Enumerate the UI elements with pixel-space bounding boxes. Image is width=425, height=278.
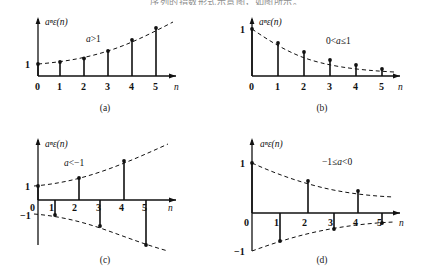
x-tick-0: 0: [249, 81, 254, 92]
caption-c: (c): [85, 255, 125, 265]
sample-point-n1: [53, 213, 57, 217]
x-tick-1: 1: [49, 202, 54, 213]
x-axis-label: n: [168, 203, 173, 213]
x-tick-4: 4: [353, 81, 358, 92]
sample-point-n5: [144, 243, 148, 247]
condition-suffix: <−1: [69, 158, 85, 168]
x-tick-2: 2: [72, 202, 77, 213]
sample-point-n1: [58, 60, 62, 64]
x-axis-arrow: [169, 74, 176, 79]
sample-point-n0: [36, 62, 40, 66]
sample-point-n2: [82, 57, 86, 61]
sample-point-n3: [328, 58, 332, 62]
condition-label: 0<a≤1: [326, 36, 351, 46]
x-tick-2: 2: [81, 81, 86, 92]
condition-label: −1≤a<0: [322, 157, 352, 167]
panel-d: aⁿε(n) −1≤a<0 1 −1 0 1 2 3 4 5 n: [222, 133, 422, 253]
x-tick-0: 0: [35, 81, 40, 92]
x-axis-arrow: [169, 198, 176, 203]
sample-point-n1: [276, 41, 280, 45]
sample-point-n3: [106, 49, 110, 53]
caption-d: (d): [302, 255, 342, 265]
x-tick-2: 2: [302, 217, 307, 228]
x-tick-5: 5: [379, 81, 384, 92]
y-tick-1: 1: [240, 158, 245, 169]
sample-point-n5: [380, 67, 384, 71]
y-tick-1: 1: [25, 181, 30, 192]
y-axis-arrow: [36, 138, 41, 145]
y-tick-1: 1: [240, 24, 245, 35]
y-tick-1: 1: [25, 59, 30, 70]
condition-suffix: >1: [91, 34, 101, 44]
panel-a: aⁿε(n) a>1 1 0 1 2 3 4 5 n: [8, 12, 208, 112]
sample-point-n4: [122, 159, 126, 163]
x-tick-5: 5: [142, 202, 147, 213]
sample-point-n4: [130, 38, 134, 42]
y-axis-label: aⁿε(n): [259, 17, 282, 28]
x-tick-4: 4: [353, 217, 358, 228]
figure-container: 序列的指数形式示意图，如图所示。 aⁿε(n): [0, 0, 425, 278]
panel-a-plot: aⁿε(n) a>1 1 0 1 2 3 4 5 n: [8, 12, 208, 112]
x-tick-4: 4: [129, 81, 134, 92]
x-tick-1: 1: [57, 81, 62, 92]
y-tick-minus1: −1: [234, 246, 245, 257]
sample-point-n1: [278, 239, 282, 243]
x-tick-2: 2: [301, 81, 306, 92]
sample-point-n2: [302, 50, 306, 54]
y-axis-label: aⁿε(n): [45, 139, 68, 150]
condition-prefix: −1≤: [322, 157, 337, 167]
envelope-curve-lower: [34, 214, 168, 251]
condition-label: a>1: [86, 34, 101, 44]
condition-suffix: ≤1: [341, 36, 351, 46]
envelope-curve-upper: [34, 144, 168, 186]
condition-suffix: <0: [342, 157, 352, 167]
panel-c: aⁿε(n) a<−1 1 −1 0 1 2 3 4 5 n: [8, 133, 208, 253]
x-axis-arrow: [393, 74, 400, 79]
envelope-curve: [38, 22, 173, 64]
x-tick-4: 4: [119, 202, 124, 213]
condition-label: a<−1: [64, 158, 84, 168]
x-tick-3: 3: [328, 217, 333, 228]
x-tick-5: 5: [377, 217, 382, 228]
sample-point-n2: [77, 176, 81, 180]
top-cropped-caption: 序列的指数形式示意图，如图所示。: [150, 0, 425, 5]
x-tick-3: 3: [105, 81, 110, 92]
panel-b-plot: aⁿε(n) 0<a≤1 1 0 1 2 3 4 5 n: [222, 12, 422, 112]
panel-b: aⁿε(n) 0<a≤1 1 0 1 2 3 4 5 n: [222, 12, 422, 112]
sample-point-n2: [306, 179, 310, 183]
x-axis-label: n: [399, 218, 404, 228]
caption-a: (a): [85, 103, 125, 113]
sample-point-n4: [356, 189, 360, 193]
y-axis-label: aⁿε(n): [260, 139, 283, 150]
envelope-curve: [252, 29, 394, 72]
x-tick-0: 0: [244, 217, 249, 228]
sample-point-n5: [154, 26, 158, 30]
envelope-curve-upper: [252, 163, 394, 197]
y-axis-arrow: [36, 17, 41, 24]
x-axis-arrow: [393, 211, 400, 216]
panel-c-plot: aⁿε(n) a<−1 1 −1 0 1 2 3 4 5 n: [8, 133, 208, 253]
x-tick-1: 1: [274, 217, 279, 228]
panel-d-plot: aⁿε(n) −1≤a<0 1 −1 0 1 2 3 4 5 n: [222, 133, 422, 253]
x-tick-1: 1: [275, 81, 280, 92]
x-tick-5: 5: [153, 81, 158, 92]
caption-b: (b): [302, 103, 342, 113]
sample-point-n3: [98, 224, 102, 228]
sample-point-n4: [354, 63, 358, 67]
x-tick-0: 0: [30, 202, 35, 213]
y-axis-arrow: [250, 138, 255, 145]
condition-prefix: 0<: [326, 36, 336, 46]
y-axis-label: aⁿε(n): [45, 17, 68, 28]
sample-point-n0: [250, 27, 254, 31]
x-axis-label: n: [398, 82, 403, 92]
x-tick-3: 3: [96, 202, 101, 213]
sample-point-n0: [250, 161, 254, 165]
x-tick-3: 3: [327, 81, 332, 92]
x-axis-label: n: [174, 82, 179, 92]
sample-point-n0: [36, 184, 40, 188]
y-axis-arrow: [250, 17, 255, 24]
